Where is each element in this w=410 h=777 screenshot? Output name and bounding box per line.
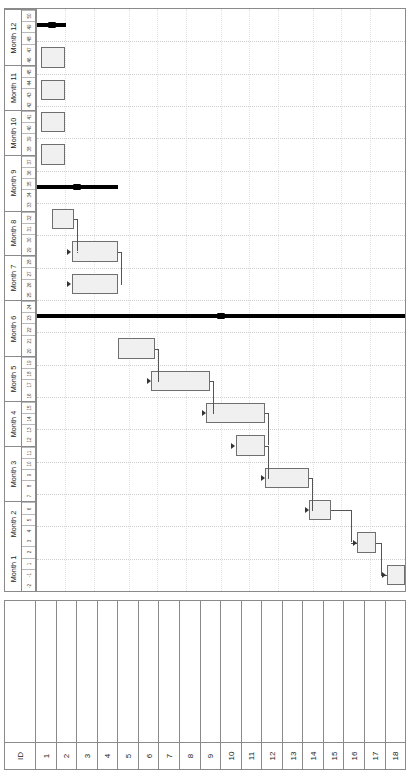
dependency-link [121,252,122,284]
dependency-link [158,381,159,382]
task-name-cell: Contract award [324,601,344,742]
task-gridline [37,138,405,139]
task-id-cell: 4 [98,742,118,769]
task-gridline [37,300,405,301]
table-row[interactable]: Mobilisation of resources16 [343,601,364,769]
gantt-bar-task-13[interactable] [206,403,265,423]
task-name-cell: Quarterly review [386,601,406,742]
table-row[interactable]: 1st performance review17 [364,601,385,769]
week-tick: 18 [22,368,35,379]
table-header-column: Task NameID [5,601,35,769]
week-tick: 48 [22,32,35,43]
task-id-cell: 15 [324,742,344,769]
week-ticks: 29303132 [22,212,35,256]
task-gridline [37,74,405,75]
timeline-month-4: Month 412131415 [5,401,35,446]
week-ticks: 3334353637 [22,156,35,211]
dependency-arrow [147,378,151,384]
week-tick: 43 [22,88,35,99]
week-tick: 23 [22,312,35,323]
week-tick: 49 [22,21,35,32]
task-id-cell: 11 [242,742,262,769]
gantt-bar-task-17[interactable] [357,532,375,552]
dependency-link [77,252,78,253]
week-ticks: 42434445 [22,66,35,110]
task-id-cell: 12 [262,742,282,769]
week-tick: 26 [22,279,35,290]
week-tick: 50 [22,10,35,21]
week-tick: 41 [22,111,35,122]
gantt-bar-task-14[interactable] [236,435,265,455]
week-ticks: 7891011 [22,447,35,502]
task-gridline [37,332,405,333]
month-label: Month 6 [5,301,22,356]
dependency-link [268,478,269,479]
table-row[interactable]: Service level agreement8 [179,601,200,769]
week-tick: 2 [22,546,35,557]
table-row[interactable]: Pre-contract meeting14 [302,601,323,769]
table-row[interactable]: Employment legislation5 [117,601,138,769]
table-row[interactable]: Tenderer briefing11 [241,601,262,769]
week-tick: 16 [22,391,35,401]
gantt-bar-task-9[interactable] [72,274,118,294]
dependency-link [213,381,214,413]
month-label: Month 7 [5,256,22,300]
gantt-bar-task-15[interactable] [265,468,309,488]
table-row[interactable]: Identifying stakeholders4 [97,601,118,769]
table-row[interactable]: Contract award15 [323,601,344,769]
week-tick: 39 [22,133,35,144]
task-name-cell: Mobilisation of resources [344,601,364,742]
table-row[interactable]: Quarterly review18 [385,601,406,769]
task-gridline [37,106,405,107]
week-ticks: 38394041 [22,111,35,155]
week-ticks: 4647484950 [22,10,35,65]
gantt-bar-task-18[interactable] [387,565,405,585]
timeline-axis: Month 1-2-112Month 23456Month 37891011Mo… [4,8,36,592]
gantt-bar-task-3[interactable] [41,80,65,100]
table-row[interactable]: Conditions of contract9 [200,601,221,769]
dependency-arrow [202,410,206,416]
dependency-arrow [305,507,309,513]
dependency-link [312,510,313,511]
gantt-bar-task-2[interactable] [41,47,65,67]
task-id-cell: 10 [221,742,241,769]
timeline-month-5: Month 516171819 [5,356,35,401]
week-ticks: 16171819 [22,357,35,401]
table-row[interactable]: Tendering Process10 [220,601,241,769]
dependency-link [381,543,382,575]
gantt-bar-task-8[interactable] [72,241,118,261]
month-label: Month 1 [5,546,22,591]
table-row[interactable]: Defining services2 [56,601,77,769]
gantt-bar-task-6[interactable] [37,185,118,189]
gantt-bar-task-12[interactable] [151,371,210,391]
task-id-cell: 5 [118,742,138,769]
table-row[interactable]: Tender assessment13 [282,601,303,769]
table-row[interactable]: Tender Documents6 [138,601,159,769]
table-row[interactable]: Strategy1 [35,601,56,769]
table-row[interactable]: Service specifications7 [158,601,179,769]
task-gridline [37,235,405,236]
task-name-cell: Pre-contract meeting [303,601,323,742]
dependency-link [213,413,214,414]
table-row[interactable]: Tendering period12 [261,601,282,769]
week-tick: -2 [22,581,35,591]
task-gridline [37,397,405,398]
dependency-link [121,284,122,285]
timeline-month-1: Month 1-2-112 [5,546,35,591]
gantt-bar-task-4[interactable] [41,112,65,132]
gantt-bar-task-1[interactable] [37,23,66,27]
task-id-cell: 6 [139,742,159,769]
gantt-bar-task-5[interactable] [41,144,65,164]
gantt-bar-task-10[interactable] [37,314,405,318]
week-tick: 22 [22,323,35,334]
task-gridline [37,268,405,269]
gantt-bar-task-11[interactable] [118,338,155,358]
task-id-cell: 17 [365,742,385,769]
task-name-cell: Tender assessment [283,601,303,742]
gantt-plot-area [36,8,406,592]
gantt-bar-task-7[interactable] [52,209,74,229]
month-label: Month 4 [5,402,22,446]
task-name-cell: Tenderer briefing [242,601,262,742]
table-row[interactable]: Current arrangements3 [76,601,97,769]
week-ticks: 3456 [22,502,35,546]
